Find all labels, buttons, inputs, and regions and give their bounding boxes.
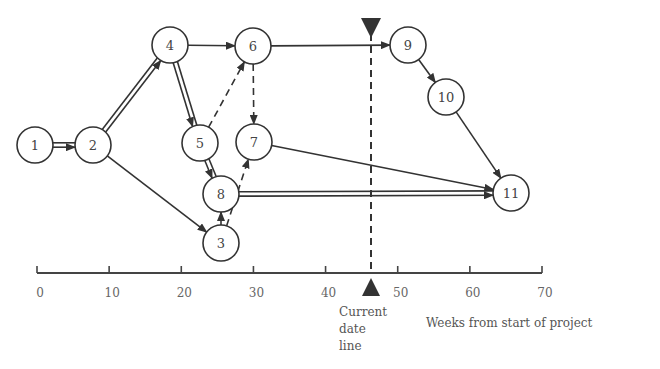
current-date-top-marker-icon	[361, 18, 381, 38]
node-label-4: 4	[166, 38, 174, 53]
current-date-label-line-2: date	[339, 321, 387, 338]
tick-label-0: 0	[36, 286, 44, 300]
edge-5-6	[209, 62, 245, 127]
node-label-3: 3	[217, 236, 225, 251]
edge-2-4	[106, 61, 161, 132]
network-diagram	[0, 0, 660, 369]
node-label-2: 2	[89, 138, 97, 153]
edge-2-4	[102, 58, 157, 129]
current-date-bottom-marker-icon	[362, 278, 380, 296]
axis-label: Weeks from start of project	[426, 316, 592, 330]
node-label-11: 11	[503, 186, 520, 201]
edge-6-9	[271, 45, 390, 46]
node-label-7: 7	[250, 135, 258, 150]
tick-label-10: 10	[105, 286, 120, 300]
tick-label-40: 40	[321, 286, 336, 300]
tick-label-60: 60	[465, 286, 480, 300]
node-label-1: 1	[31, 138, 39, 153]
tick-label-50: 50	[393, 286, 408, 300]
current-date-label-line-1: Current	[339, 304, 387, 321]
current-date-label: Current date line	[339, 304, 387, 355]
edge-9-10	[419, 60, 436, 83]
current-date-label-line-3: line	[339, 338, 387, 355]
node-label-6: 6	[249, 39, 257, 54]
edge-10-11	[456, 112, 501, 178]
edge-2-3	[107, 156, 206, 232]
time-axis	[37, 266, 542, 273]
current-date-line	[361, 18, 381, 296]
edge-7-11	[272, 146, 494, 190]
tick-label-70: 70	[537, 286, 552, 300]
edge-4-5	[173, 63, 192, 127]
tick-label-30: 30	[249, 286, 264, 300]
node-label-5: 5	[196, 136, 204, 151]
edge-8-11	[239, 191, 493, 192]
edge-8-11	[239, 195, 493, 196]
node-label-10: 10	[438, 90, 455, 105]
tick-label-20: 20	[177, 286, 192, 300]
node-label-8: 8	[217, 187, 225, 202]
edge-6-7	[253, 64, 254, 124]
edge-4-6	[188, 45, 235, 46]
node-label-9: 9	[404, 38, 412, 53]
edge-4-5	[177, 62, 196, 126]
edges	[53, 45, 501, 232]
